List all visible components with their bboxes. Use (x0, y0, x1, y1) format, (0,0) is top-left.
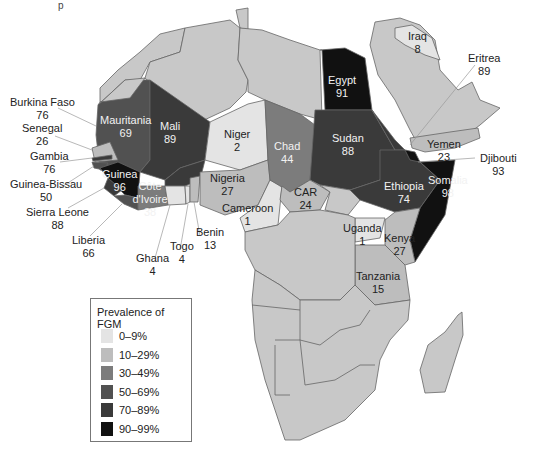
region-togo (185, 186, 190, 204)
legend-item: 90–99% (101, 422, 159, 436)
swatch-50-69 (101, 385, 113, 399)
label-gambia: Gambia76 (30, 150, 69, 176)
label-nigeria: Nigeria27 (210, 172, 245, 198)
label-tanzania: Tanzania15 (356, 270, 400, 296)
label-ethiopia: Ethiopia74 (384, 180, 424, 206)
label-cameroon: Cameroon1 (222, 202, 273, 228)
label-mali: Mali89 (160, 120, 180, 146)
region-benin (190, 176, 200, 202)
label-mauritania: Mauritania69 (100, 114, 151, 140)
swatch-0-9 (101, 329, 113, 343)
label-kenya: Kenya27 (384, 232, 415, 258)
legend-item: 50–69% (101, 385, 159, 399)
label-ghana: Ghana4 (136, 252, 169, 278)
swatch-30-49 (101, 366, 113, 380)
swatch-70-89 (101, 403, 113, 417)
label-guinea-bissau: Guinea-Bissau50 (10, 178, 82, 204)
label-uganda: Uganda1 (343, 222, 382, 248)
label-chad: Chad44 (274, 140, 300, 166)
label-eritrea: Eritrea89 (468, 52, 500, 78)
label-burkina-faso: Burkina Faso76 (10, 96, 75, 122)
legend-item: 70–89% (101, 403, 159, 417)
region-madagascar (420, 312, 463, 393)
label-togo: Togo4 (170, 240, 194, 266)
label-niger: Niger2 (224, 128, 250, 154)
label-benin: Benin13 (196, 226, 224, 252)
label-iraq: Iraq8 (408, 30, 427, 56)
label-somalia: Somalia98 (428, 174, 468, 200)
legend-item: 10–29% (101, 348, 159, 362)
label-liberia: Liberia66 (72, 234, 105, 260)
swatch-90-99 (101, 422, 113, 436)
label-yemen: Yemen23 (427, 138, 461, 164)
cropped-title-fragment: p (58, 0, 64, 11)
label-djibouti: Djibouti93 (480, 152, 517, 178)
label-sierra-leone: Sierra Leone88 (26, 206, 89, 232)
legend-item: 30–49% (101, 366, 159, 380)
region-middle-east (370, 18, 500, 148)
label-senegal: Senegal26 (22, 122, 62, 148)
legend-item: 0–9% (101, 329, 147, 343)
swatch-10-29 (101, 348, 113, 362)
label-sudan: Sudan88 (332, 132, 364, 158)
legend: Prevalence of FGM 0–9% 10–29% 30–49% 50–… (90, 298, 192, 442)
label-egypt: Egypt91 (328, 74, 356, 100)
label-car: CAR24 (294, 186, 317, 212)
label-cote-divoire: Côte d'Ivoire38 (130, 180, 170, 219)
legend-title: Prevalence of FGM (97, 306, 191, 330)
